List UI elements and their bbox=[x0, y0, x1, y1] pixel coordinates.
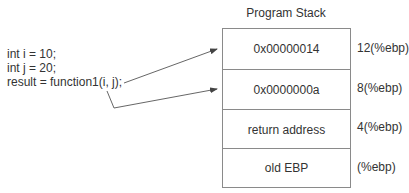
arrow-to-arg-i bbox=[107, 89, 217, 108]
arrow-to-arg-j bbox=[124, 49, 217, 83]
arrows-layer bbox=[0, 0, 409, 193]
